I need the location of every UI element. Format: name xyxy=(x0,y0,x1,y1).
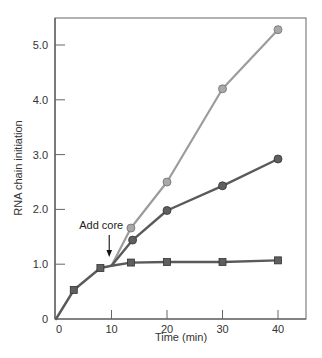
series-2 xyxy=(112,155,283,266)
series-line xyxy=(112,159,279,266)
series-3 xyxy=(112,26,283,266)
y-tick-label: 2.0 xyxy=(33,203,48,215)
series-line xyxy=(56,266,112,319)
x-tick-label: 30 xyxy=(216,323,228,335)
y-axis-ticks: 01.02.03.04.05.0 xyxy=(33,39,65,325)
x-tick-label: 10 xyxy=(105,323,117,335)
x-axis-title: Time (min) xyxy=(155,331,207,343)
y-axis-title: RNA chain initiation xyxy=(12,120,24,215)
square-marker xyxy=(97,265,104,272)
y-tick-label: 1.0 xyxy=(33,258,48,270)
circle-marker xyxy=(129,236,137,244)
circle-marker xyxy=(274,26,282,34)
data-series xyxy=(56,26,282,319)
square-marker xyxy=(275,257,282,264)
y-tick-label: 0 xyxy=(42,313,48,325)
x-tick-label: 40 xyxy=(272,323,284,335)
square-marker xyxy=(127,259,134,266)
circle-marker xyxy=(219,182,227,190)
square-marker xyxy=(164,259,171,266)
y-tick-label: 3.0 xyxy=(33,149,48,161)
y-tick-label: 5.0 xyxy=(33,39,48,51)
series-1 xyxy=(112,257,282,266)
square-marker xyxy=(219,259,226,266)
arrow-head-icon xyxy=(106,250,112,257)
circle-marker xyxy=(163,206,171,214)
circle-marker xyxy=(219,85,227,93)
circle-marker xyxy=(127,224,135,232)
series-line xyxy=(112,30,279,266)
circle-marker xyxy=(274,155,282,163)
series-0 xyxy=(56,265,112,319)
circle-marker xyxy=(163,178,171,186)
x-tick-label: 0 xyxy=(56,323,62,335)
series-line xyxy=(112,260,279,265)
y-tick-label: 4.0 xyxy=(33,94,48,106)
rna-initiation-chart: 01.02.03.04.05.0 010203040 Add core Time… xyxy=(0,0,322,358)
annotation-label: Add core xyxy=(79,219,123,231)
square-marker xyxy=(70,286,77,293)
annotations: Add core xyxy=(79,219,123,257)
